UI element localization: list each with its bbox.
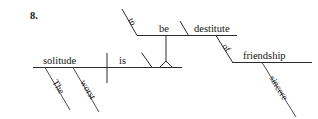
word-of: of <box>220 42 232 54</box>
word-to: to <box>126 16 138 27</box>
word-sincere: sincere <box>267 74 290 102</box>
word-the: The <box>50 78 66 96</box>
word-worst: worst <box>78 78 98 102</box>
complement-slant-line <box>142 53 153 68</box>
item-number-label: 8. <box>30 10 38 21</box>
word-is: is <box>119 55 126 66</box>
word-friendship: friendship <box>243 50 286 61</box>
sentence-diagram-canvas: 8. solitude is The worst to be destitute <box>0 0 318 119</box>
word-be: be <box>159 23 169 34</box>
pedestal-leg-right <box>166 61 173 68</box>
predicate-adjective-slant <box>180 21 189 36</box>
word-solitude: solitude <box>43 55 77 66</box>
pedestal-leg-left <box>160 61 167 68</box>
sentence-diagram-container: 8. solitude is The worst to be destitute <box>0 0 318 119</box>
word-destitute: destitute <box>194 23 230 34</box>
